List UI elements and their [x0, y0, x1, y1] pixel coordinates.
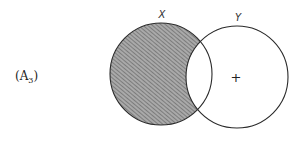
figure-label: (A3)	[15, 69, 38, 85]
set-label-y: Y	[235, 12, 242, 23]
plus-marker: +	[231, 70, 242, 85]
set-label-x: X	[158, 9, 167, 20]
venn-diagram: X Y + (A3)	[0, 0, 302, 142]
